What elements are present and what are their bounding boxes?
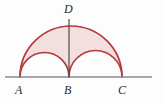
figure-canvas bbox=[0, 0, 165, 102]
geometry-figure: A B C D bbox=[0, 0, 165, 102]
vertex-label-b: B bbox=[64, 84, 71, 96]
vertex-label-a: A bbox=[15, 84, 22, 96]
shaded-arbelos-region bbox=[20, 26, 122, 77]
vertex-label-d: D bbox=[64, 3, 73, 15]
vertex-label-c: C bbox=[118, 84, 126, 96]
